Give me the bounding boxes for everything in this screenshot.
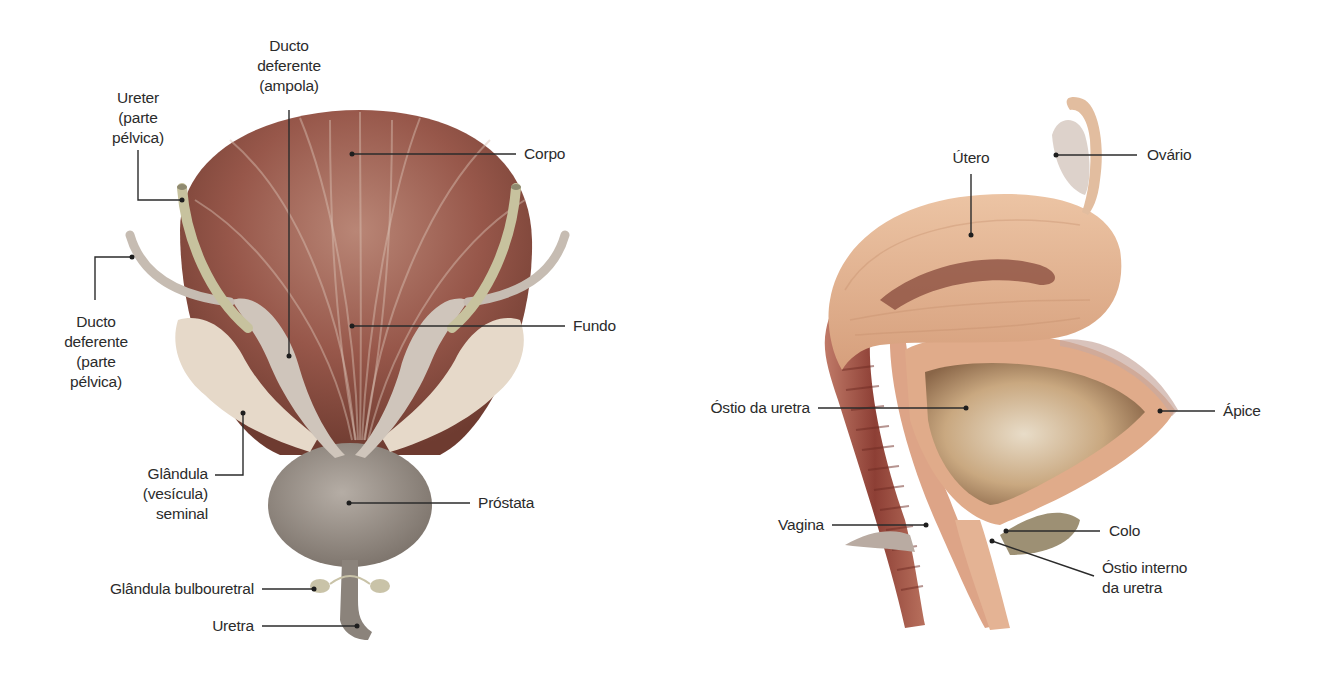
label-ducto-deferente-ampola: Ducto deferente (ampola) xyxy=(248,36,330,96)
label-corpo: Corpo xyxy=(524,144,565,164)
anatomy-figure: Ureter (parte pélvica) Ducto deferente (… xyxy=(0,0,1322,684)
label-uretra: Uretra xyxy=(180,616,254,636)
label-colo: Colo xyxy=(1109,521,1140,541)
female-pelvis-illustration xyxy=(825,97,1178,630)
label-ostio-interno-da-uretra: Óstio interno da uretra xyxy=(1102,558,1187,598)
label-ostio-da-uretra: Óstio da uretra xyxy=(680,398,810,418)
label-vagina: Vagina xyxy=(760,515,824,535)
label-apice: Ápice xyxy=(1223,401,1261,421)
label-ducto-deferente-pelvica: Ducto deferente (parte pélvica) xyxy=(55,312,137,392)
label-glandula-seminal: Glândula (vesícula) seminal xyxy=(118,464,208,524)
male-bladder-illustration xyxy=(130,110,565,640)
label-ureter: Ureter (parte pélvica) xyxy=(100,88,176,148)
label-utero: Útero xyxy=(941,148,1001,168)
label-glandula-bulbouretral: Glândula bulbouretral xyxy=(92,579,254,599)
label-fundo: Fundo xyxy=(573,316,616,336)
label-prostata: Próstata xyxy=(478,493,534,513)
label-ovario: Ovário xyxy=(1147,145,1191,165)
